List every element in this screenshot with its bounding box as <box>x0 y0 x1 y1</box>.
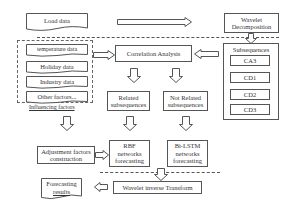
holiday-data-label: Holiday data <box>26 63 88 70</box>
flowchart: Load data Wavelet Decomposition temperat… <box>0 0 292 212</box>
adjustment-line-1: Adjustment factors <box>41 148 91 155</box>
adjustment-factors-node: Adjustment factors construction <box>37 146 95 164</box>
related-line-2: subsequences <box>111 101 146 108</box>
arrow-right-icon <box>95 150 109 160</box>
temperature-data-label: temperature data <box>26 46 88 53</box>
load-data-node: Load data <box>26 13 88 31</box>
industry-data-node: Industry data <box>26 76 88 88</box>
arrow-down-icon <box>179 116 193 131</box>
bilstm-networks-node: Bi-LSTM networks forecasting <box>167 140 208 167</box>
not-related-line-2: subsequences <box>168 101 203 108</box>
holiday-data-node: Holiday data <box>26 61 88 73</box>
arrow-left-icon <box>194 49 219 59</box>
bilstm-line-2: networks <box>176 150 200 157</box>
forecasting-results-line-2: results <box>41 188 82 195</box>
influencing-factors-label: Influencing factors <box>29 104 74 110</box>
forecasting-results-line-1: Forecasting <box>41 180 82 187</box>
subsequence-cd2-label: CD2 <box>244 91 256 98</box>
arrow-down-icon <box>169 68 183 83</box>
bilstm-line-1: Bi-LSTM <box>175 142 201 149</box>
arrow-down-icon <box>123 116 137 131</box>
adjustment-line-2: construction <box>50 155 82 162</box>
wavelet-decomposition-line-2: Decomposition <box>232 23 272 30</box>
bilstm-line-3: forecasting <box>173 157 202 164</box>
subsequences-title: Subsequences <box>233 46 269 53</box>
subsequence-cd1: CD1 <box>230 72 270 83</box>
wavelet-decomposition-line-1: Wavelet <box>241 16 262 23</box>
other-factors-node: Other factors... <box>26 91 88 103</box>
related-line-1: Related <box>119 94 139 101</box>
arrow-down-icon <box>154 168 168 181</box>
wavelet-inverse-label: Wavelet inverse Transform <box>122 184 192 191</box>
dashed-separator-top <box>37 37 279 38</box>
correlation-analysis-node: Correlation Analysis <box>115 45 192 62</box>
subsequence-ca3-label: CA3 <box>244 57 256 64</box>
arrow-left-icon <box>94 182 108 192</box>
temperature-data-node: temperature data <box>26 44 88 56</box>
industry-data-label: Industry data <box>26 78 88 85</box>
arrow-down-icon <box>60 116 74 131</box>
forecasting-results-node: Forecasting results <box>41 178 82 200</box>
subsequence-cd1-label: CD1 <box>244 74 256 81</box>
subsequence-cd3-label: CD3 <box>244 106 256 113</box>
subsequence-cd2: CD2 <box>230 89 270 100</box>
wavelet-decomposition-node: Wavelet Decomposition <box>224 13 279 33</box>
rbf-line-3: forecasting <box>115 157 144 164</box>
rbf-line-2: networks <box>118 150 142 157</box>
load-data-label: Load data <box>26 17 88 24</box>
not-related-subsequences-node: Not Related subsequences <box>163 91 208 111</box>
related-subsequences-node: Related subsequences <box>107 91 150 111</box>
wavelet-inverse-node: Wavelet inverse Transform <box>113 181 202 194</box>
rbf-networks-node: RBF networks forecasting <box>109 140 150 167</box>
other-factors-label: Other factors... <box>26 93 88 100</box>
subsequence-cd3: CD3 <box>230 104 270 115</box>
rbf-line-1: RBF <box>123 142 135 149</box>
correlation-analysis-label: Correlation Analysis <box>127 50 181 57</box>
not-related-line-1: Not Related <box>170 94 201 101</box>
arrow-right-icon <box>93 50 115 60</box>
arrow-down-icon <box>127 68 141 83</box>
subsequence-ca3: CA3 <box>230 55 270 66</box>
arrow-right-icon <box>117 17 193 27</box>
